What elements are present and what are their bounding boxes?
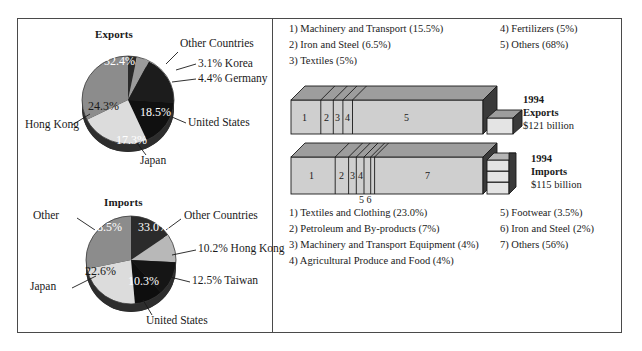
exports-caption-year: 1994	[523, 94, 544, 105]
exports-legend-item-4: 4) Fertilizers (5%)	[500, 24, 578, 35]
imports-united-states-value: 10.3%	[128, 275, 159, 287]
exports-bar-seg-2: 2	[324, 113, 329, 123]
imports-bar-seg-7: 7	[425, 171, 430, 181]
imports-legend-item-5: 5) Footwear (3.5%)	[500, 208, 583, 219]
imports-caption-kind: Imports	[531, 166, 567, 177]
exports-legend-item-1: 1) Machinery and Transport (15.5%)	[289, 24, 443, 35]
imports-other-countries-value: 33.0%	[138, 221, 169, 233]
imports-label-other: Other	[33, 210, 59, 222]
imports-other-value: 38.5%	[91, 221, 122, 233]
imports-caption-year: 1994	[531, 153, 552, 164]
imports-legend-item-1: 1) Textiles and Clothing (23.0%)	[289, 208, 427, 219]
exports-bar-seg-1: 1	[302, 113, 307, 123]
imports-label-other-countries: Other Countries	[184, 210, 258, 222]
exports-label-germany: 4.4% Germany	[198, 73, 268, 85]
exports-label-japan: Japan	[140, 155, 166, 167]
imports-label-taiwan: 12.5% Taiwan	[192, 275, 258, 287]
imports-legend-item-7: 7) Others (56%)	[500, 240, 568, 251]
exports-bar-seg-5: 5	[404, 113, 409, 123]
imports-bar-seg-3: 3	[350, 171, 355, 181]
imports-legend-item-6: 6) Iron and Steel (2%)	[500, 224, 594, 235]
exports-bar-seg-4: 4	[345, 113, 350, 123]
imports-bar-caption: 1994 Imports $115 billion	[531, 152, 582, 191]
exports-caption-kind: Exports	[523, 107, 559, 118]
exports-label-korea: 3.1% Korea	[198, 58, 253, 70]
exports-united-states-value: 18.5%	[140, 106, 171, 118]
exports-pie-title: Exports	[95, 28, 133, 40]
exports-legend-item-3: 3) Textiles (5%)	[289, 56, 357, 67]
imports-bar-seg-5-6: 5 6	[359, 195, 372, 205]
exports-label-hong-kong: Hong Kong	[25, 119, 79, 131]
exports-bar-caption: 1994 Exports $121 billion	[523, 93, 574, 132]
exports-other-countries-value: 32.4%	[104, 55, 135, 67]
exports-hong-kong-value: 24.3%	[88, 100, 119, 112]
imports-pie-title: Imports	[104, 196, 143, 208]
exports-caption-value: $121 billion	[523, 120, 574, 131]
panel-divider	[272, 18, 273, 333]
exports-legend-item-5: 5) Others (68%)	[500, 40, 568, 51]
imports-legend-item-3: 3) Machinery and Transport Equipment (4%…	[289, 240, 479, 251]
imports-bar-seg-4: 4	[358, 171, 363, 181]
imports-bar-seg-2: 2	[339, 171, 344, 181]
imports-japan-value: 22.6%	[85, 265, 116, 277]
exports-japan-value: 17.3%	[116, 134, 147, 146]
imports-label-japan: Japan	[30, 281, 56, 293]
figure-root: Exports	[0, 0, 642, 351]
imports-legend-item-4: 4) Agricultural Produce and Food (4%)	[289, 256, 454, 267]
imports-label-united-states: United States	[146, 315, 208, 327]
imports-legend-item-2: 2) Petroleum and By-products (7%)	[289, 224, 439, 235]
imports-caption-value: $115 billion	[531, 179, 582, 190]
exports-legend-item-2: 2) Iron and Steel (6.5%)	[289, 40, 391, 51]
imports-label-hong-kong: 10.2% Hong Kong	[198, 243, 285, 255]
exports-label-other-countries: Other Countries	[180, 38, 254, 50]
exports-bar-seg-3: 3	[335, 113, 340, 123]
exports-label-united-states: United States	[188, 117, 250, 129]
imports-bar-seg-1: 1	[309, 171, 314, 181]
